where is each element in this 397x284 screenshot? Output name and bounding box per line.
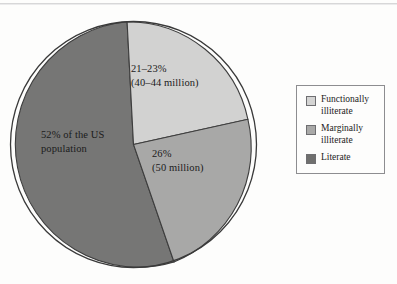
legend: Functionally illiterate Marginally illit… <box>296 85 385 174</box>
figure-page: 21–23% (40–44 million) 26% (50 million) … <box>0 0 397 284</box>
slice-label-count: (50 million) <box>152 161 204 175</box>
legend-label-line2: illiterate <box>321 106 353 116</box>
slice-label-count: population <box>41 142 104 156</box>
legend-item-marginally-illiterate[interactable]: Marginally illiterate <box>306 123 384 146</box>
legend-item-functionally-illiterate[interactable]: Functionally illiterate <box>306 94 384 117</box>
legend-swatch-marginally-illiterate-icon <box>306 125 316 135</box>
legend-label-marginally-illiterate: Marginally illiterate <box>321 123 363 146</box>
legend-swatch-functionally-illiterate-icon <box>306 96 316 106</box>
slice-label-percent: 21–23% <box>131 62 199 76</box>
legend-label-line1: Functionally <box>321 94 369 104</box>
slice-label-marginally-illiterate: 26% (50 million) <box>152 147 204 174</box>
slice-label-functionally-illiterate: 21–23% (40–44 million) <box>131 62 199 89</box>
legend-label-line1: Literate <box>321 152 351 162</box>
legend-item-literate[interactable]: Literate <box>306 152 384 164</box>
legend-label-literate: Literate <box>321 152 351 164</box>
legend-swatch-literate-icon <box>306 154 316 164</box>
slice-label-literate: 52% of the US population <box>41 128 104 155</box>
page-top-rule-shadow <box>0 4 397 5</box>
slice-label-percent: 26% <box>152 147 204 161</box>
slice-label-percent: 52% of the US <box>41 128 104 142</box>
legend-label-functionally-illiterate: Functionally illiterate <box>321 94 369 117</box>
legend-label-line1: Marginally <box>321 123 363 133</box>
slice-label-count: (40–44 million) <box>131 76 199 90</box>
legend-label-line2: illiterate <box>321 135 353 145</box>
